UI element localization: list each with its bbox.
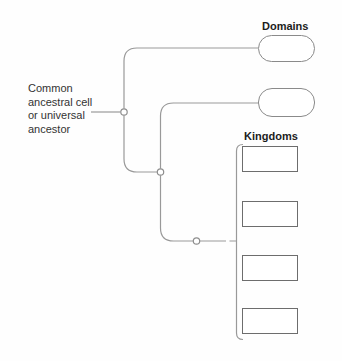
split-node-circle-3 xyxy=(193,238,199,244)
phylogeny-worksheet-figure: Common ancestral cell or universal ances… xyxy=(0,0,342,361)
branch-to-domain-1 xyxy=(124,48,258,109)
domain-blank-pill-2 xyxy=(258,88,315,117)
kingdom-blank-box-1 xyxy=(242,146,298,172)
ancestor-node-circle xyxy=(121,109,127,115)
kingdom-blank-box-3 xyxy=(242,255,298,281)
common-ancestor-label: Common ancestral cell or universal ances… xyxy=(28,82,92,136)
common-ancestor-line-4: ancestor xyxy=(28,123,92,137)
kingdom-blank-box-2 xyxy=(242,201,298,227)
common-ancestor-line-1: Common xyxy=(28,82,92,96)
common-ancestor-line-2: ancestral cell xyxy=(28,96,92,110)
common-ancestor-line-3: or universal xyxy=(28,109,92,123)
kingdom-blank-box-4 xyxy=(242,308,298,334)
branch-to-node-2 xyxy=(124,115,157,172)
kingdoms-heading: Kingdoms xyxy=(244,130,298,142)
domain-blank-pill-1 xyxy=(258,35,315,62)
domains-heading: Domains xyxy=(262,20,308,32)
branch-to-node-3 xyxy=(161,175,194,241)
split-node-circle-2 xyxy=(157,169,163,175)
